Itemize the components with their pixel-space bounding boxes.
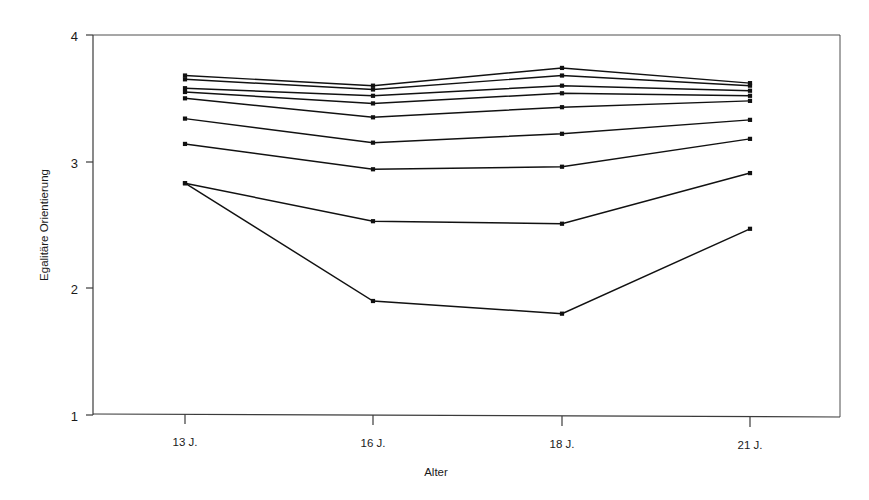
series-data-point — [560, 105, 564, 109]
x-axis-title: Alter — [424, 466, 448, 478]
y-tick-marks — [86, 35, 93, 415]
series-line — [185, 173, 750, 224]
series-line — [185, 119, 750, 143]
series-data-point — [183, 77, 187, 81]
line-chart-canvas: 4 3 2 1 13 J. 16 J. 18 J. 21 J. Alter Eg… — [0, 0, 869, 500]
series-data-point — [560, 312, 564, 316]
plot-axes — [93, 35, 840, 417]
series-group — [183, 117, 752, 145]
chart-figure: 4 3 2 1 13 J. 16 J. 18 J. 21 J. Alter Eg… — [0, 0, 869, 500]
series-line — [185, 76, 750, 90]
series-group — [183, 171, 752, 226]
series-group — [183, 84, 752, 98]
series-data-point — [371, 87, 375, 91]
data-series-layer — [183, 66, 752, 316]
series-data-point — [748, 84, 752, 88]
series-data-point — [183, 117, 187, 121]
series-data-point — [748, 99, 752, 103]
x-tick-label-3: 18 J. — [550, 438, 575, 450]
series-data-point — [560, 132, 564, 136]
series-line — [185, 98, 750, 117]
series-data-point — [748, 118, 752, 122]
series-group — [183, 137, 752, 172]
y-tick-label-3: 3 — [71, 156, 78, 171]
series-data-point — [371, 167, 375, 171]
series-data-point — [371, 141, 375, 145]
series-data-point — [560, 165, 564, 169]
x-tick-label-1: 13 J. — [173, 436, 198, 448]
x-axis-line — [93, 414, 840, 417]
series-data-point — [371, 115, 375, 119]
series-data-point — [183, 86, 187, 90]
series-data-point — [560, 91, 564, 95]
series-group — [183, 96, 752, 119]
x-tick-label-4: 21 J. — [738, 439, 763, 451]
x-tick-label-2: 16 J. — [361, 437, 386, 449]
series-data-point — [748, 171, 752, 175]
series-data-point — [748, 227, 752, 231]
series-data-point — [371, 299, 375, 303]
series-data-point — [560, 66, 564, 70]
series-data-point — [371, 84, 375, 88]
series-data-point — [183, 90, 187, 94]
series-data-point — [371, 101, 375, 105]
y-axis-title: Egalitäre Orientierung — [38, 169, 50, 281]
series-data-point — [748, 94, 752, 98]
y-tick-label-1: 1 — [71, 409, 78, 424]
series-data-point — [748, 137, 752, 141]
series-line — [185, 139, 750, 169]
series-data-point — [560, 73, 564, 77]
series-data-point — [183, 96, 187, 100]
series-data-point — [183, 181, 187, 185]
series-data-point — [183, 142, 187, 146]
y-tick-label-4: 4 — [71, 29, 78, 44]
series-line — [185, 183, 750, 313]
series-data-point — [560, 84, 564, 88]
series-data-point — [371, 219, 375, 223]
y-tick-label-2: 2 — [71, 282, 78, 297]
series-group — [183, 181, 752, 316]
series-data-point — [183, 73, 187, 77]
series-data-point — [748, 89, 752, 93]
series-data-point — [560, 222, 564, 226]
series-data-point — [371, 94, 375, 98]
series-line — [185, 92, 750, 103]
